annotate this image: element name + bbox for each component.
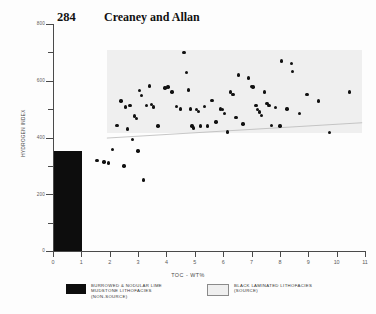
legend: BURROWED & NODULAR LIME MUDSTONE LITHOFA… bbox=[0, 283, 376, 314]
x-tick-major bbox=[166, 251, 167, 257]
x-tick-label: 7 bbox=[242, 259, 262, 265]
x-tick-label: 1 bbox=[71, 259, 91, 265]
data-point bbox=[280, 59, 283, 62]
data-point bbox=[119, 99, 122, 102]
x-tick-label: 2 bbox=[100, 259, 120, 265]
data-point bbox=[187, 88, 190, 91]
x-tick-label: 0 bbox=[43, 259, 63, 265]
data-point bbox=[210, 99, 213, 102]
data-point bbox=[214, 120, 217, 123]
data-point bbox=[107, 161, 110, 164]
y-tick-minor bbox=[48, 52, 53, 53]
data-point bbox=[166, 85, 169, 88]
data-point bbox=[278, 124, 281, 127]
legend-item-non-source: BURROWED & NODULAR LIME MUDSTONE LITHOFA… bbox=[66, 283, 162, 299]
figure-root: 284 Creaney and Allan 0200400600800 0123… bbox=[0, 0, 376, 314]
y-tick-major bbox=[46, 251, 53, 252]
data-point bbox=[102, 160, 105, 163]
data-point bbox=[251, 85, 254, 88]
data-point bbox=[152, 105, 155, 108]
data-point bbox=[124, 105, 127, 108]
data-point bbox=[122, 164, 125, 167]
data-point bbox=[199, 124, 202, 127]
data-point bbox=[348, 90, 351, 93]
y-tick-label: 600 bbox=[37, 78, 45, 83]
data-point bbox=[263, 90, 266, 93]
data-point bbox=[317, 99, 320, 102]
x-tick-major bbox=[365, 251, 366, 257]
y-tick-major bbox=[46, 24, 53, 25]
y-tick-label: 400 bbox=[37, 135, 45, 140]
data-point bbox=[305, 93, 308, 96]
y-tick-major bbox=[46, 194, 53, 195]
data-point bbox=[126, 127, 129, 130]
data-point bbox=[115, 124, 118, 127]
data-point bbox=[226, 130, 229, 133]
x-tick-major bbox=[81, 251, 82, 257]
y-tick-minor bbox=[48, 109, 53, 110]
x-tick-label: 9 bbox=[298, 259, 318, 265]
data-point bbox=[148, 84, 151, 87]
y-tick-label: 200 bbox=[37, 192, 45, 197]
legend-swatch-grey bbox=[207, 284, 229, 296]
x-tick-major bbox=[252, 251, 253, 257]
data-point bbox=[170, 90, 173, 93]
scatter-plot: 0200400600800 01234567891011 HYDROGEN IN… bbox=[0, 0, 376, 314]
legend-label-non-source: BURROWED & NODULAR LIME MUDSTONE LITHOFA… bbox=[91, 283, 162, 299]
x-tick-label: 4 bbox=[156, 259, 176, 265]
y-tick-minor bbox=[48, 223, 53, 224]
y-axis-line bbox=[53, 24, 54, 251]
data-point bbox=[285, 107, 288, 110]
x-tick-label: 5 bbox=[185, 259, 205, 265]
data-point bbox=[182, 51, 185, 54]
x-tick-label: 11 bbox=[355, 259, 375, 265]
y-tick-major bbox=[46, 138, 53, 139]
data-point bbox=[254, 104, 257, 107]
x-tick-label: 10 bbox=[327, 259, 347, 265]
x-tick-major bbox=[110, 251, 111, 257]
x-tick-major bbox=[223, 251, 224, 257]
data-point bbox=[185, 71, 188, 74]
x-tick-major bbox=[195, 251, 196, 257]
y-tick-label: 800 bbox=[37, 21, 45, 26]
legend-swatch-black bbox=[66, 284, 86, 294]
x-tick-major bbox=[308, 251, 309, 257]
data-point bbox=[189, 107, 192, 110]
data-point bbox=[197, 110, 200, 113]
data-point bbox=[231, 93, 234, 96]
y-tick-label: 0 bbox=[42, 248, 45, 253]
x-tick-label: 8 bbox=[270, 259, 290, 265]
x-tick-label: 6 bbox=[213, 259, 233, 265]
x-tick-major bbox=[337, 251, 338, 257]
data-point bbox=[136, 149, 139, 152]
data-point bbox=[234, 116, 237, 119]
legend-item-source: BLACK LAMINATED LITHOFACIES (SOURCE) bbox=[207, 283, 312, 296]
legend-label-source: BLACK LAMINATED LITHOFACIES (SOURCE) bbox=[234, 283, 312, 294]
y-tick-minor bbox=[48, 166, 53, 167]
x-axis-title: TOC - WT% bbox=[0, 272, 376, 278]
data-point bbox=[192, 126, 195, 129]
x-tick-major bbox=[280, 251, 281, 257]
x-axis-line bbox=[53, 251, 365, 252]
data-point bbox=[175, 105, 178, 108]
x-tick-label: 3 bbox=[128, 259, 148, 265]
y-tick-major bbox=[46, 81, 53, 82]
x-tick-major bbox=[138, 251, 139, 257]
y-axis-title: HYDROGEN INDEX bbox=[21, 103, 27, 163]
data-point bbox=[241, 122, 244, 125]
x-tick-major bbox=[53, 251, 54, 257]
data-point bbox=[156, 124, 159, 127]
non-source-lithofacies-bar bbox=[53, 151, 82, 251]
